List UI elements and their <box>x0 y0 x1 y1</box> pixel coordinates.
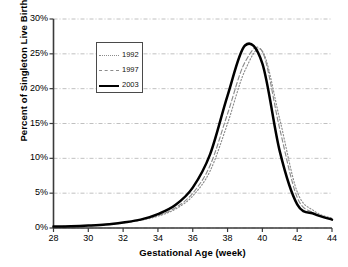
y-axis-tick-label: 0% <box>14 223 48 232</box>
x-axis-tick-label: 42 <box>282 234 312 243</box>
x-axis-tick-label: 44 <box>317 234 347 243</box>
x-axis-tick-label: 28 <box>39 234 69 243</box>
legend-line-solid-icon <box>99 81 119 89</box>
legend-item-1992: 1992 <box>97 47 142 62</box>
legend-label: 1997 <box>119 66 139 74</box>
legend-line-dotted-icon <box>99 51 119 59</box>
y-axis-tick-label: 5% <box>14 188 48 197</box>
legend-label: 1992 <box>119 51 139 59</box>
x-axis-tick-label: 32 <box>108 234 138 243</box>
x-axis-title: Gestational Age (week) <box>53 247 332 258</box>
y-axis-title: Percent of Singleton Live Births (%) <box>18 0 32 164</box>
chart-figure: 0%5%10%15%20%25%30% 283032343638404244 P… <box>0 0 348 267</box>
x-axis-tick-labels: 283032343638404244 <box>0 234 348 248</box>
legend-item-2003: 2003 <box>97 77 142 92</box>
x-axis-tick-label: 36 <box>178 234 208 243</box>
chart-legend: 1992 1997 2003 <box>96 42 143 93</box>
x-axis-tick-label: 34 <box>143 234 173 243</box>
legend-item-1997: 1997 <box>97 62 142 77</box>
x-axis-tick-label: 38 <box>213 234 243 243</box>
x-axis-tick-label: 40 <box>247 234 277 243</box>
legend-label: 2003 <box>119 81 139 89</box>
legend-line-dashed-icon <box>99 66 119 74</box>
plot-canvas <box>0 0 348 267</box>
x-axis-tick-label: 30 <box>73 234 103 243</box>
